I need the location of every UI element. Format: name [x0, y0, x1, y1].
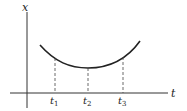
x-axis-label: x: [22, 1, 29, 14]
diagram-canvas: x t t1 t2 t3: [0, 0, 187, 111]
t3-label: t3: [118, 95, 127, 108]
t1-label: t1: [50, 95, 59, 108]
t2-label: t2: [83, 95, 92, 108]
t-axis-label: t: [171, 87, 176, 100]
